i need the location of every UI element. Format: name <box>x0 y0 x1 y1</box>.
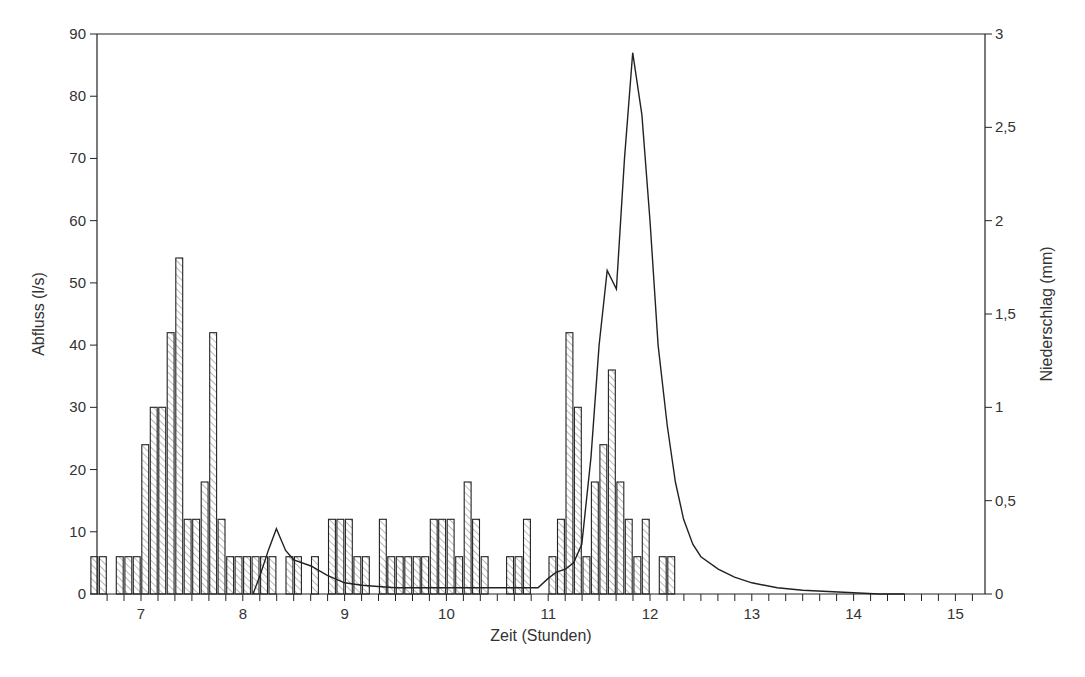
precipitation-bar <box>600 445 607 594</box>
precipitation-bar <box>150 407 157 594</box>
left-tick-label: 60 <box>69 212 86 229</box>
precipitation-bar <box>193 519 200 594</box>
precipitation-bar <box>617 482 624 594</box>
precipitation-bar <box>116 557 123 594</box>
x-tick-label: 8 <box>239 605 247 622</box>
hydrograph-chart: 789101112131415 0102030405060708090 00,5… <box>0 0 1085 677</box>
precipitation-bar <box>388 557 395 594</box>
right-tick-label: 3 <box>995 25 1003 42</box>
precipitation-bar <box>473 519 480 594</box>
precipitation-bar <box>329 519 336 594</box>
x-tick-label: 11 <box>540 605 556 622</box>
left-tick-label: 30 <box>69 398 86 415</box>
precipitation-bar <box>235 557 242 594</box>
precipitation-bar <box>430 519 437 594</box>
right-axis-title: Niederschlag (mm) <box>1038 246 1055 381</box>
right-axis-ticks: 00,511,522,53 <box>985 25 1016 602</box>
precipitation-bar <box>464 482 471 594</box>
precipitation-bar <box>244 557 251 594</box>
precipitation-bar <box>210 333 217 594</box>
precipitation-bar <box>99 557 106 594</box>
precipitation-bar <box>362 557 369 594</box>
right-tick-label: 1 <box>995 398 1003 415</box>
precipitation-bars <box>91 258 675 594</box>
x-axis-ticks: 789101112131415 <box>107 594 972 622</box>
precipitation-bar <box>608 370 615 594</box>
precipitation-bar <box>566 333 573 594</box>
x-tick-label: 9 <box>340 605 348 622</box>
x-tick-label: 12 <box>642 605 659 622</box>
precipitation-bar <box>159 407 166 594</box>
precipitation-bar <box>286 557 293 594</box>
precipitation-bar <box>354 557 361 594</box>
x-tick-label: 15 <box>947 605 964 622</box>
precipitation-bar <box>574 407 581 594</box>
left-tick-label: 40 <box>69 336 86 353</box>
right-tick-label: 0,5 <box>995 492 1016 509</box>
precipitation-bar <box>379 519 386 594</box>
x-axis-title: Zeit (Stunden) <box>490 627 591 644</box>
x-tick-label: 13 <box>743 605 760 622</box>
precipitation-bar <box>184 519 191 594</box>
precipitation-bar <box>524 519 531 594</box>
precipitation-bar <box>227 557 234 594</box>
left-tick-label: 10 <box>69 523 86 540</box>
precipitation-bar <box>583 557 590 594</box>
precipitation-bar <box>337 519 344 594</box>
precipitation-bar <box>125 557 132 594</box>
left-tick-label: 0 <box>78 585 86 602</box>
x-tick-label: 10 <box>438 605 455 622</box>
precipitation-bar <box>133 557 140 594</box>
precipitation-bar <box>218 519 225 594</box>
x-tick-label: 7 <box>137 605 145 622</box>
right-tick-label: 0 <box>995 585 1003 602</box>
precipitation-bar <box>625 519 632 594</box>
precipitation-bar <box>634 557 641 594</box>
precipitation-bar <box>312 557 319 594</box>
left-tick-label: 90 <box>69 25 86 42</box>
left-tick-label: 70 <box>69 149 86 166</box>
precipitation-bar <box>176 258 183 594</box>
precipitation-bar <box>558 519 565 594</box>
precipitation-bar <box>447 519 454 594</box>
left-axis-ticks: 0102030405060708090 <box>69 25 97 602</box>
right-tick-label: 2,5 <box>995 118 1016 135</box>
precipitation-bar <box>642 519 649 594</box>
left-tick-label: 80 <box>69 87 86 104</box>
right-tick-label: 1,5 <box>995 305 1016 322</box>
precipitation-bar <box>167 333 174 594</box>
precipitation-bar <box>269 557 276 594</box>
right-tick-label: 2 <box>995 212 1003 229</box>
precipitation-bar <box>591 482 598 594</box>
precipitation-bar <box>142 445 149 594</box>
precipitation-bar <box>659 557 666 594</box>
precipitation-bar <box>201 482 208 594</box>
left-tick-label: 50 <box>69 274 86 291</box>
precipitation-bar <box>439 519 446 594</box>
precipitation-bar <box>668 557 675 594</box>
x-tick-label: 14 <box>845 605 862 622</box>
left-axis-title: Abfluss (l/s) <box>30 272 47 356</box>
left-tick-label: 20 <box>69 461 86 478</box>
